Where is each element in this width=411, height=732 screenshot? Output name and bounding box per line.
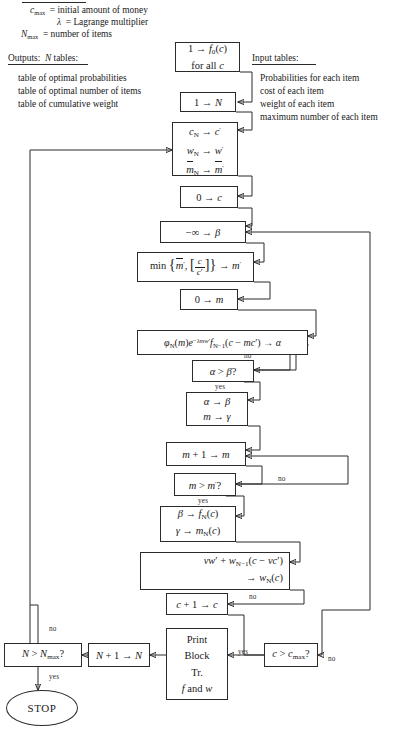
legend-input-table-0: Probabilities for each item: [260, 72, 359, 84]
legend-outputs-heading: Outputs: N tables:: [8, 52, 78, 64]
node-zero-c-text: 0 → c: [196, 191, 222, 204]
node-assign-beta-gamma-line2: m → γ: [203, 410, 230, 423]
node-test-N-nmax-text: N > Nmax?: [22, 647, 64, 664]
node-load-item[interactable]: cN → c′ wN → w′ mN → m′: [172, 122, 238, 176]
edge-label-alpha-beta-no: no: [244, 352, 252, 360]
node-init-f0-line2: for all c: [191, 59, 224, 72]
node-phi-alpha[interactable]: φN(m)e−λmw′fN−1(c − mc′) → α: [137, 330, 308, 355]
edge-label-alpha-beta-yes: yes: [215, 383, 225, 391]
node-phi-alpha-text: φN(m)e−λmw′fN−1(c − mc′) → α: [164, 334, 281, 352]
node-print-block-line3: Tr.: [191, 666, 203, 679]
node-min-mprime-text: min {m′, [cc′]} → m′: [150, 257, 241, 276]
node-init-N[interactable]: 1 → N: [180, 92, 236, 112]
legend-output-item-0: table of optimal probabilities: [18, 72, 127, 84]
node-store-f-m[interactable]: β → fN(c) γ → mN(c): [160, 506, 236, 542]
node-test-alpha-beta[interactable]: α > β?: [192, 360, 254, 382]
node-init-f0[interactable]: 1 → f0(c) for all c: [175, 42, 240, 72]
legend-input-table-1: cost of each item: [260, 85, 324, 97]
node-increment-m-text: m + 1 → m: [182, 448, 229, 461]
edge-label-cmax-no: no: [328, 655, 336, 663]
node-store-f-m-line2: γ → mN(c): [176, 524, 220, 541]
node-test-alpha-beta-text: α > β?: [210, 365, 237, 378]
node-test-m-mprime-text: m > m′?: [189, 477, 222, 492]
node-neg-infinity-beta[interactable]: −∞ → β: [160, 221, 246, 243]
legend-input-tables-heading: Input tables:: [252, 52, 299, 64]
node-print-block-line4: f and w: [182, 682, 212, 695]
node-init-N-text: 1 → N: [194, 96, 222, 109]
legend-output-item-1: table of optimal number of items: [18, 85, 141, 97]
edge-label-cmax-yes: yes: [238, 648, 248, 656]
node-assign-beta-gamma[interactable]: α → β m → γ: [186, 392, 248, 426]
node-increment-m[interactable]: m + 1 → m: [166, 442, 246, 466]
node-test-m-mprime[interactable]: m > m′?: [174, 473, 236, 496]
edge-label-nmax-yes: yes: [49, 673, 59, 681]
flowchart-canvas: cmax = initial amount of money λ = Lagra…: [0, 0, 411, 732]
node-stop[interactable]: STOP: [6, 690, 78, 726]
node-load-item-line1: cN → c′: [189, 123, 221, 142]
node-stop-text: STOP: [27, 702, 56, 714]
node-test-c-cmax-text: c > cmax?: [272, 647, 309, 664]
edge-label-m-mprime-no: no: [278, 475, 286, 483]
node-store-f-m-line1: β → fN(c): [178, 507, 219, 524]
node-cumulative-weight[interactable]: vw′ + wN−1(c − vc′) → wN(c): [140, 552, 290, 590]
inputs-heading-rule: [22, 2, 86, 3]
node-cumulative-weight-line2: → wN(c): [246, 571, 283, 588]
node-init-f0-line1: 1 → f0(c): [188, 42, 227, 59]
node-increment-c[interactable]: c + 1 → c: [166, 593, 228, 615]
node-zero-c[interactable]: 0 → c: [180, 186, 238, 208]
legend-input-lambda: λ = Lagrange multiplier: [57, 16, 148, 28]
node-increment-N-text: N + 1 → N: [96, 649, 142, 662]
node-increment-N[interactable]: N + 1 → N: [88, 643, 150, 667]
node-zero-m-text: 0 → m: [195, 293, 224, 306]
input-tables-heading-rule: [252, 64, 316, 65]
legend-input-table-2: weight of each item: [260, 98, 334, 110]
outputs-heading-rule: [8, 64, 88, 65]
legend-input-nmax: Nmax = number of items: [21, 28, 112, 43]
node-increment-c-text: c + 1 → c: [176, 598, 218, 611]
node-print-block-line1: Print: [187, 633, 207, 646]
node-print-block-line2: Block: [184, 649, 209, 662]
edge-label-m-mprime-yes: yes: [198, 497, 208, 505]
node-test-c-cmax[interactable]: c > cmax?: [264, 643, 318, 667]
node-cumulative-weight-line1: vw′ + wN−1(c − vc′): [204, 554, 283, 571]
edge-label-inc-c-no: no: [249, 593, 257, 601]
node-neg-infinity-beta-text: −∞ → β: [186, 226, 220, 239]
node-test-N-nmax[interactable]: N > Nmax?: [4, 643, 82, 667]
edge-label-nmax-no: no: [49, 625, 57, 633]
node-load-item-line3: mN → m′: [186, 161, 224, 180]
node-min-mprime[interactable]: min {m′, [cc′]} → m′: [137, 252, 254, 282]
legend-input-table-3: maximum number of each item: [260, 111, 378, 123]
node-zero-m[interactable]: 0 → m: [180, 289, 238, 310]
node-print-block[interactable]: Print Block Tr. f and w: [166, 628, 228, 700]
node-load-item-line2: wN → w′: [187, 142, 223, 161]
legend-output-item-2: table of cumulative weight: [18, 98, 118, 110]
node-assign-beta-gamma-line1: α → β: [204, 395, 231, 408]
